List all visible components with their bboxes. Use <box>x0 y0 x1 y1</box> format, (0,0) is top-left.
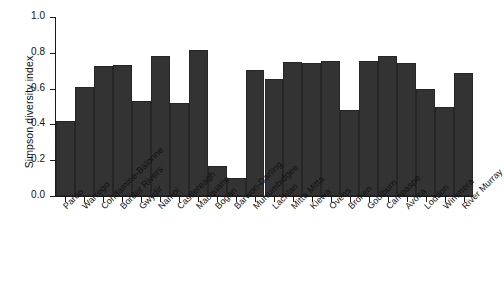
y-tick-mark <box>50 160 55 161</box>
y-tick-label: 0.2 <box>31 153 45 164</box>
bar <box>170 103 189 196</box>
bar <box>56 121 75 196</box>
y-tick-mark <box>50 124 55 125</box>
y-tick-label: 0.4 <box>31 117 45 128</box>
y-tick-mark <box>50 17 55 18</box>
y-tick-label: 0.0 <box>31 189 45 200</box>
bar <box>75 87 94 196</box>
y-tick-label: 1.0 <box>31 10 45 21</box>
y-tick-label: 0.8 <box>31 46 45 57</box>
y-tick-label: 0.6 <box>31 82 45 93</box>
bar <box>94 66 113 196</box>
bar <box>359 61 378 196</box>
y-tick-mark <box>50 196 55 197</box>
bar <box>321 61 340 196</box>
plot-area <box>56 17 473 196</box>
y-tick-mark <box>50 53 55 54</box>
bar <box>378 56 397 197</box>
bar <box>340 110 359 196</box>
y-tick-mark <box>50 89 55 90</box>
